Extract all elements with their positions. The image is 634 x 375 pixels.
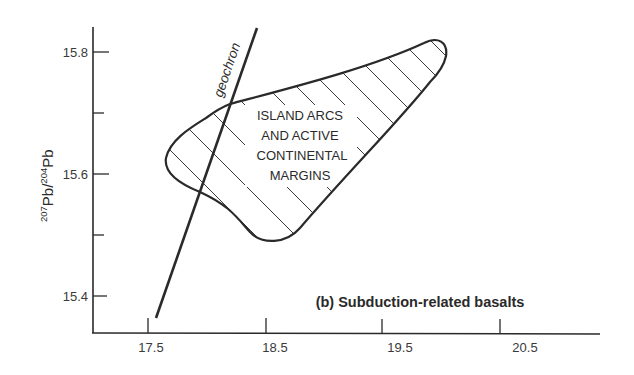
region-label-line: ISLAND ARCS [257,108,343,123]
region-label-line: AND ACTIVE [261,128,339,143]
chart: 15.8 15.6 15.4 17.5 18.5 19.5 20.5 207Pb… [0,0,634,375]
region-label-line: MARGINS [270,168,331,183]
x-tick-label: 19.5 [387,340,412,355]
chart-title: (b) Subduction-related basalts [316,294,525,310]
y-tick-label: 15.6 [63,167,88,182]
x-ticks [148,318,500,333]
geochron-label: geochron [211,41,244,99]
region-label-line: CONTINENTAL [257,148,348,163]
y-tick-label: 15.4 [63,289,88,304]
y-ticks [93,52,109,296]
x-tick-label: 17.5 [138,340,163,355]
x-tick-label: 18.5 [262,340,287,355]
x-axis [92,333,600,334]
svg-text:207Pb/204Pb: 207Pb/204Pb [38,149,56,222]
svg-text:geochron: geochron [211,41,244,99]
x-tick-label: 20.5 [512,340,537,355]
y-axis-label: 207Pb/204Pb [38,149,56,222]
y-tick-label: 15.8 [63,45,88,60]
